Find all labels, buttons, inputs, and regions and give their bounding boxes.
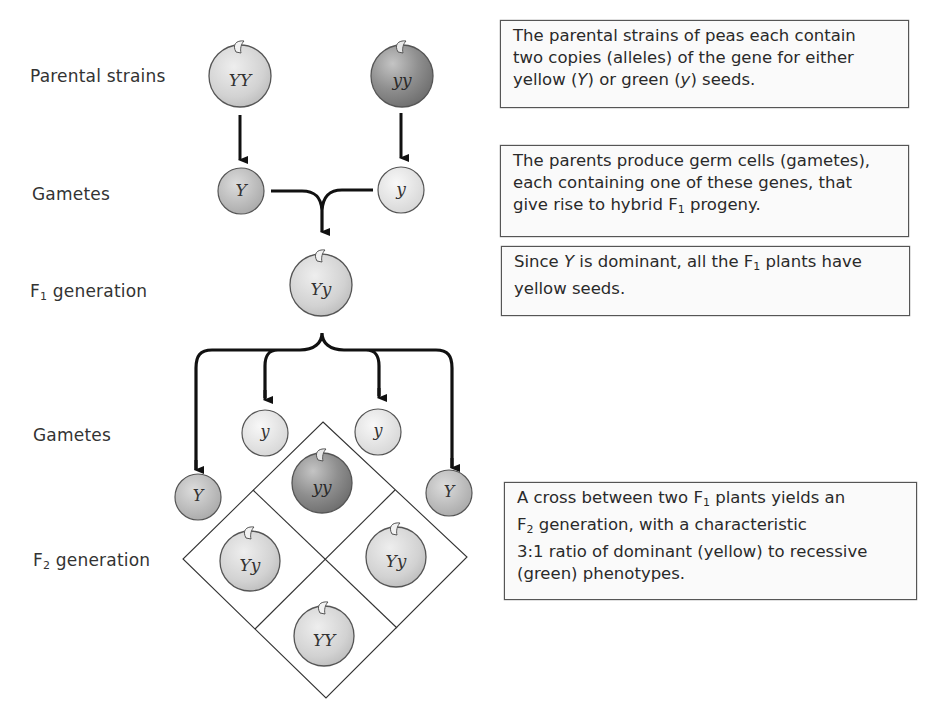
note4-line3: 3:1 ratio of dominant (yellow) to recess… <box>517 541 904 563</box>
gamete-label-row1-right: y <box>386 179 416 199</box>
genotype-parent-yellow: YY <box>210 70 270 90</box>
note1-line3: yellow (Y) or green (y) seeds. <box>513 69 896 91</box>
note3-line2: yellow seeds. <box>514 278 897 300</box>
gamete-label-row2-upper-left: y <box>250 422 280 441</box>
note2-line3: give rise to hybrid F1 progeny. <box>513 194 896 221</box>
note1-line2: two copies (alleles) of the gene for eit… <box>513 47 896 69</box>
genotype-f2-right: Yy <box>366 551 426 571</box>
note3-line1: Since Y is dominant, all the F1 plants h… <box>514 251 897 278</box>
note-f2-generation: A cross between two F1 plants yields an … <box>504 482 917 600</box>
note4-line1: A cross between two F1 plants yields an <box>517 487 904 514</box>
genotype-f1: Yy <box>291 279 351 299</box>
note4-line4: (green) phenotypes. <box>517 563 904 585</box>
gamete-label-row1-left: Y <box>226 180 256 200</box>
gamete-label-row2-upper-right: y <box>363 421 393 440</box>
genotype-parent-green: yy <box>372 70 432 90</box>
note2-line1: The parents produce germ cells (gametes)… <box>513 150 896 172</box>
genotype-f2-left: Yy <box>220 555 280 575</box>
gamete-label-row2-side-right: Y <box>434 482 464 501</box>
gamete-label-row2-side-left: Y <box>183 486 213 505</box>
genetics-cross-diagram <box>0 0 932 725</box>
note2-line2: each containing one of these genes, that <box>513 172 896 194</box>
genotype-f2-bottom: YY <box>294 630 354 650</box>
note4-line2: F2 generation, with a characteristic <box>517 514 904 541</box>
note-f1-generation: Since Y is dominant, all the F1 plants h… <box>501 246 910 316</box>
genotype-f2-top: yy <box>292 477 352 497</box>
merge-connector <box>271 190 373 232</box>
note-parental-strains: The parental strains of peas each contai… <box>500 20 909 108</box>
note1-line1: The parental strains of peas each contai… <box>513 25 896 47</box>
note-gametes: The parents produce germ cells (gametes)… <box>500 145 909 237</box>
